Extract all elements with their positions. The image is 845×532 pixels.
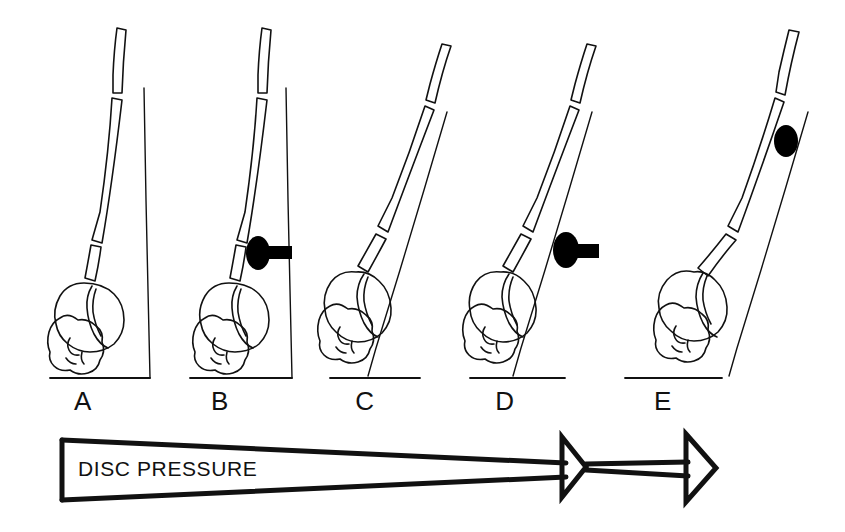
panel-b-load-marker (246, 236, 292, 270)
arrowhead-mid (562, 437, 586, 497)
panel-label-e: E (643, 386, 683, 417)
panel-d-load-marker (553, 232, 599, 268)
panel-b-drawing (190, 28, 292, 378)
panel-label-b: B (200, 386, 240, 417)
panel-e-load-marker (774, 125, 798, 157)
figure-canvas: A B C D E DISC PRESSURE (0, 0, 845, 532)
panel-e-drawing (625, 30, 808, 378)
anatomical-line-drawing (0, 0, 845, 532)
arrowhead-end (686, 434, 716, 502)
panel-label-c: C (345, 386, 385, 417)
panel-d-drawing (463, 44, 596, 378)
panel-label-d: D (485, 386, 525, 417)
panel-label-a: A (63, 386, 103, 417)
panel-c-drawing (318, 44, 451, 378)
disc-pressure-label: DISC PRESSURE (78, 457, 257, 481)
panel-a-drawing (48, 28, 150, 378)
